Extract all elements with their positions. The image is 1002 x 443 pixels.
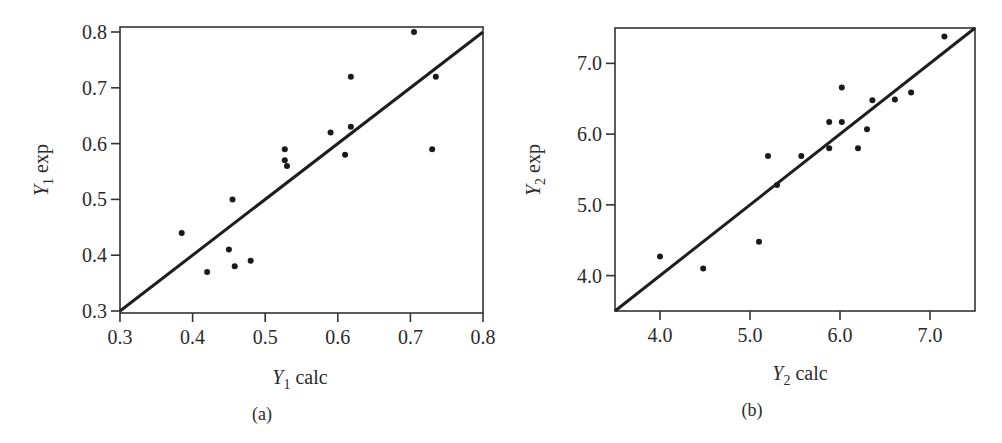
data-point <box>826 119 832 125</box>
fit-line-a <box>120 32 483 311</box>
x-tick-label: 0.8 <box>471 326 496 348</box>
x-tick-label: 0.3 <box>108 326 133 348</box>
data-point <box>869 97 875 103</box>
data-point <box>232 263 238 269</box>
x-axis-label-b: Y2 calc <box>772 362 827 388</box>
y-tick-label: 6.0 <box>577 123 602 145</box>
data-point <box>908 89 914 95</box>
data-points-b <box>657 33 947 271</box>
data-point <box>348 124 354 130</box>
data-point <box>226 247 232 253</box>
y-axis-label-b: Y2 exp <box>522 144 548 196</box>
x-tick-label: 7.0 <box>918 324 943 346</box>
y-tick-label: 0.7 <box>82 77 107 99</box>
data-point <box>179 230 185 236</box>
data-point <box>839 84 845 90</box>
data-point <box>774 182 780 188</box>
x-ticks-a: 0.30.40.50.60.70.8 <box>108 313 496 348</box>
x-tick-label: 4.0 <box>648 324 673 346</box>
data-point <box>864 126 870 132</box>
data-point <box>204 269 210 275</box>
chart-panel-a: 0.30.40.50.60.70.8 0.30.40.50.60.70.8 Y1… <box>30 21 496 425</box>
data-point <box>348 74 354 80</box>
data-point <box>941 33 947 39</box>
data-point <box>892 96 898 102</box>
y-tick-label: 4.0 <box>577 265 602 287</box>
data-point <box>798 153 804 159</box>
y-ticks-b: 4.05.06.07.0 <box>577 52 615 286</box>
data-point <box>429 146 435 152</box>
data-point <box>248 258 254 264</box>
y-tick-label: 0.4 <box>82 244 107 266</box>
y-tick-label: 0.8 <box>82 21 107 43</box>
chart-panel-b: 4.05.06.07.0 4.05.06.07.0 Y2 calc Y2 exp… <box>522 28 975 421</box>
x-tick-label: 0.5 <box>253 326 278 348</box>
y-tick-label: 5.0 <box>577 194 602 216</box>
x-ticks-b: 4.05.06.07.0 <box>648 311 943 346</box>
x-tick-label: 6.0 <box>828 324 853 346</box>
data-point <box>342 152 348 158</box>
data-point <box>411 29 417 35</box>
data-point <box>700 266 706 272</box>
data-point <box>433 74 439 80</box>
x-tick-label: 0.6 <box>325 326 350 348</box>
data-point <box>826 145 832 151</box>
y-tick-label: 0.3 <box>82 300 107 322</box>
x-axis-label-a: Y1 calc <box>272 366 327 392</box>
data-point <box>230 196 236 202</box>
x-tick-label: 0.4 <box>180 326 205 348</box>
data-point <box>839 119 845 125</box>
y-ticks-a: 0.30.40.50.60.70.8 <box>82 21 120 322</box>
data-point <box>282 146 288 152</box>
y-tick-label: 0.5 <box>82 188 107 210</box>
data-point <box>756 239 762 245</box>
panel-caption-a: (a) <box>252 404 272 425</box>
data-point <box>855 145 861 151</box>
data-point <box>328 129 334 135</box>
fit-line-b <box>615 28 975 311</box>
data-point <box>657 254 663 260</box>
data-point <box>282 157 288 163</box>
y-tick-label: 7.0 <box>577 52 602 74</box>
x-tick-label: 5.0 <box>738 324 763 346</box>
panel-caption-b: (b) <box>742 400 763 421</box>
x-tick-label: 0.7 <box>398 326 423 348</box>
y-tick-label: 0.6 <box>82 133 107 155</box>
data-points-a <box>179 29 439 275</box>
data-point <box>765 153 771 159</box>
y-axis-label-a: Y1 exp <box>30 144 56 196</box>
data-point <box>284 163 290 169</box>
figure: 0.30.40.50.60.70.8 0.30.40.50.60.70.8 Y1… <box>0 0 1002 443</box>
